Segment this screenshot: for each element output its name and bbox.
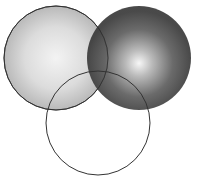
right-circle — [87, 6, 191, 110]
venn-svg — [0, 0, 204, 188]
venn-diagram — [0, 0, 204, 188]
